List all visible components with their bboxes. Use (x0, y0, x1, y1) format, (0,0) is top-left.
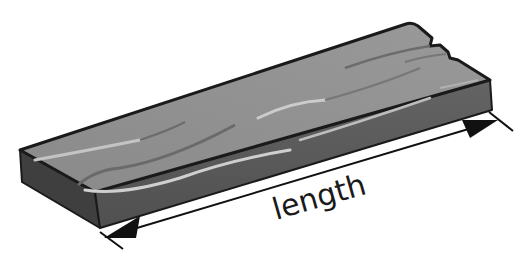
diagram-canvas: length (0, 0, 531, 265)
plank-diagram: length (0, 0, 531, 265)
length-label: length (268, 167, 370, 227)
arrow-head-right (462, 120, 498, 138)
